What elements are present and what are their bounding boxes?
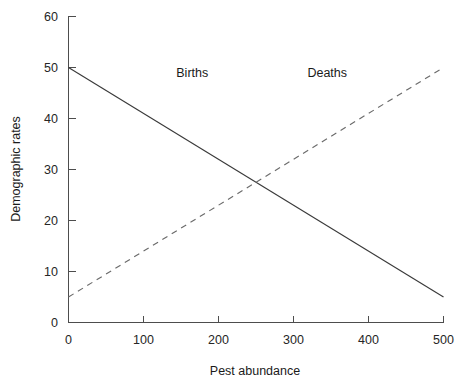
- x-tick-label-0: 0: [65, 333, 72, 347]
- y-tick-label-30: 30: [44, 163, 58, 177]
- x-axis-title: Pest abundance: [210, 364, 300, 378]
- series-line-births: [69, 68, 444, 298]
- y-tick-label-40: 40: [44, 112, 58, 126]
- y-axis-title: Demographic rates: [9, 116, 23, 222]
- axis-spines: [69, 16, 444, 323]
- series-label-deaths: Deaths: [307, 66, 347, 80]
- y-tick-label-20: 20: [44, 214, 58, 228]
- x-tick-label-400: 400: [358, 333, 379, 347]
- x-tick-label-500: 500: [433, 333, 454, 347]
- y-tick-label-0: 0: [51, 316, 58, 330]
- x-tick-label-200: 200: [208, 333, 229, 347]
- x-axis-ticks: [69, 316, 444, 323]
- chart-canvas: 0 10 20 30 40 50 60 0 100 200 300 400 50…: [0, 0, 463, 390]
- x-tick-label-300: 300: [283, 333, 304, 347]
- chart-figure: 0 10 20 30 40 50 60 0 100 200 300 400 50…: [0, 0, 463, 390]
- x-axis-tick-labels: 0 100 200 300 400 500: [65, 333, 454, 347]
- series-label-births: Births: [176, 66, 208, 80]
- y-tick-label-60: 60: [44, 10, 58, 24]
- y-axis-ticks: [69, 17, 76, 323]
- x-tick-label-100: 100: [133, 333, 154, 347]
- y-tick-label-50: 50: [44, 61, 58, 75]
- y-tick-label-10: 10: [44, 265, 58, 279]
- y-axis-tick-labels: 0 10 20 30 40 50 60: [44, 10, 58, 330]
